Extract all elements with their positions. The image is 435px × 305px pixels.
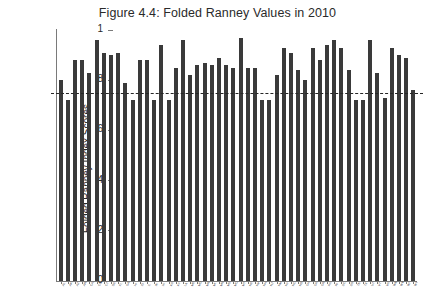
bar-series: [57, 30, 417, 281]
x-tick-label: MD: [197, 281, 203, 287]
x-tick-label: PA: [327, 282, 332, 287]
bar: [253, 68, 257, 281]
bar: [404, 58, 408, 281]
x-tick-label: IN: [154, 282, 159, 287]
x-tick-label: UT: [370, 281, 375, 286]
x-tick-label: NM: [277, 281, 283, 287]
x-tick-label: DE: [111, 281, 117, 287]
x-tick-label: FL: [118, 282, 123, 287]
x-tick-label: NV: [255, 281, 261, 287]
x-tick-label: VT: [377, 282, 382, 287]
x-tick-label: CA: [89, 281, 95, 287]
x-tick-label: ME: [190, 281, 196, 287]
x-tick-label: TN: [356, 281, 361, 286]
x-tick-label: AR: [82, 281, 88, 287]
bar: [109, 55, 113, 281]
x-tick-label: AZ: [75, 282, 80, 287]
x-tick-label: OR: [320, 281, 326, 287]
x-tick-label: MS: [226, 281, 232, 287]
bar: [174, 68, 178, 281]
x-tick-label: WY: [413, 281, 419, 287]
x-tick-label: CT: [104, 281, 109, 286]
x-tick-label: MA: [205, 281, 211, 287]
bar: [87, 73, 91, 281]
x-tick-label: LA: [183, 282, 188, 287]
x-tick-label: NJ: [269, 282, 274, 287]
bar: [296, 70, 300, 281]
bar: [131, 100, 135, 281]
x-tick-label: IA: [161, 283, 166, 287]
x-tick-label: ND: [298, 281, 304, 287]
x-tick-label: GA: [125, 281, 131, 287]
bar: [167, 100, 171, 281]
bar: [159, 45, 163, 281]
x-axis-ticks: ALAKAZARCACOCTDEFLGAHIIDILINIAKSKYLAMEMD…: [57, 282, 417, 305]
bar: [59, 80, 63, 281]
bar: [325, 45, 329, 281]
x-tick-label: SC: [341, 281, 347, 287]
x-tick-label: AL: [61, 282, 66, 287]
x-tick-label: SD: [349, 281, 355, 287]
bar: [95, 40, 99, 281]
x-tick-label: WA: [392, 281, 398, 287]
x-tick-label: WV: [399, 281, 405, 287]
x-tick-label: MO: [233, 281, 239, 287]
bar: [210, 65, 214, 281]
bar: [303, 80, 307, 281]
x-tick-label: NC: [291, 281, 297, 287]
bar: [181, 40, 185, 281]
bar: [347, 70, 351, 281]
bar: [368, 40, 372, 281]
x-tick-label: KS: [169, 281, 174, 286]
chart-title: Figure 4.4: Folded Ranney Values in 2010: [0, 6, 435, 20]
bar: [66, 100, 70, 281]
bar: [239, 38, 243, 281]
bar: [260, 100, 264, 281]
x-tick-label: OH: [305, 281, 311, 287]
bar: [275, 75, 279, 281]
x-tick-label: TX: [363, 282, 368, 287]
bar: [217, 58, 221, 281]
bar: [354, 100, 358, 281]
x-tick-label: RI: [334, 282, 339, 287]
reference-line: [51, 93, 423, 94]
x-tick-label: MT: [241, 281, 247, 287]
bar: [102, 53, 106, 281]
figure-container: Figure 4.4: Folded Ranney Values in 2010…: [0, 0, 435, 305]
x-tick-label: IL: [147, 283, 152, 287]
x-tick-label: VA: [385, 282, 390, 287]
bar: [397, 55, 401, 281]
x-tick-label: ID: [140, 282, 145, 287]
bar: [123, 83, 127, 281]
bar: [203, 63, 207, 281]
bar: [311, 48, 315, 281]
bar: [267, 100, 271, 281]
bar: [289, 53, 293, 281]
x-tick-label: NH: [262, 281, 268, 287]
x-tick-label: WI: [406, 282, 411, 287]
bar: [282, 48, 286, 281]
x-tick-label: MN: [219, 281, 225, 287]
bar: [411, 90, 415, 281]
bar: [383, 98, 387, 281]
x-tick-label: CO: [97, 281, 103, 287]
bar: [339, 48, 343, 281]
bar: [375, 73, 379, 281]
bar: [361, 100, 365, 281]
bar: [246, 68, 250, 281]
bar: [390, 48, 394, 281]
x-tick-label: MI: [212, 282, 217, 287]
x-tick-label: NY: [284, 281, 290, 287]
x-tick-label: KY: [176, 281, 181, 286]
x-tick-label: HI: [133, 282, 138, 287]
bar: [116, 53, 120, 281]
bar: [332, 40, 336, 281]
bar: [188, 75, 192, 281]
x-tick-label: OK: [313, 281, 319, 287]
bar: [224, 65, 228, 281]
x-tick-label: AK: [68, 281, 73, 286]
x-tick-label: NE: [248, 281, 254, 287]
bar: [152, 100, 156, 281]
bar: [231, 68, 235, 281]
bar: [195, 65, 199, 281]
